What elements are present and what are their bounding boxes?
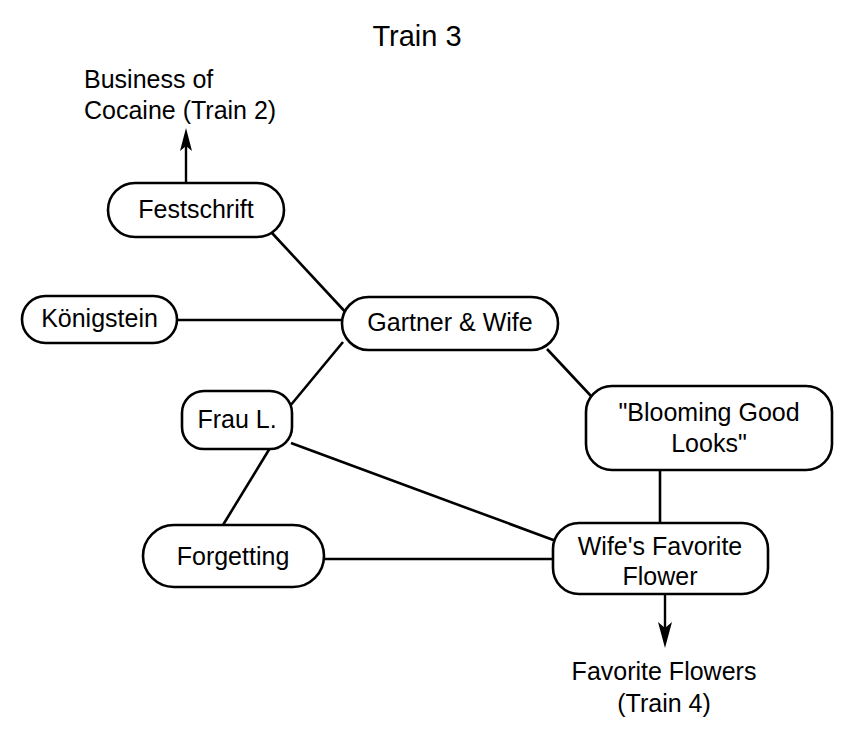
external-label-line: Cocaine (Train 2): [84, 96, 276, 124]
external-label-favorite-flowers: Favorite Flowers (Train 4): [572, 657, 757, 717]
external-label-line: Business of: [84, 65, 213, 93]
edge-gartner-wife-blooming-good-looks: [547, 349, 591, 396]
external-label-business-of-cocaine: Business of Cocaine (Train 2): [84, 65, 276, 124]
node-wifes-favorite-flower[interactable]: Wife's Favorite Flower: [553, 523, 768, 594]
node-label: Gartner & Wife: [367, 308, 532, 336]
train-3-concept-map: Train 3 Business of Cocaine (Train 2) Fe…: [0, 0, 852, 750]
node-label: Königstein: [41, 304, 158, 332]
diagram-canvas: Train 3 Business of Cocaine (Train 2) Fe…: [0, 0, 852, 750]
external-label-line: Favorite Flowers: [572, 657, 757, 685]
edge-frau-l-forgetting: [223, 448, 270, 525]
node-festschrift[interactable]: Festschrift: [108, 183, 284, 237]
node-forgetting[interactable]: Forgetting: [143, 525, 324, 587]
node-label-line: Flower: [622, 562, 697, 590]
arrow-to-favorite-flowers: [658, 594, 672, 648]
node-konigstein[interactable]: Königstein: [22, 296, 177, 343]
edge-frau-l-wifes-favorite-flower: [291, 443, 556, 541]
edge-gartner-wife-frau-l: [290, 342, 343, 406]
node-label: Festschrift: [138, 195, 253, 223]
edge-festschrift-gartner-wife: [272, 233, 350, 317]
node-label-line: Wife's Favorite: [578, 532, 743, 560]
external-label-line: (Train 4): [617, 689, 711, 717]
page-title: Train 3: [372, 20, 461, 52]
node-frau-l[interactable]: Frau L.: [182, 391, 292, 449]
node-label: Forgetting: [177, 542, 290, 570]
node-label: Frau L.: [197, 405, 276, 433]
node-blooming-good-looks[interactable]: "Blooming Good Looks": [586, 386, 832, 470]
node-gartner-wife[interactable]: Gartner & Wife: [342, 297, 558, 350]
arrow-to-business-of-cocaine: [180, 128, 192, 183]
node-label-line: Looks": [671, 429, 747, 457]
node-label-line: "Blooming Good: [618, 398, 799, 426]
